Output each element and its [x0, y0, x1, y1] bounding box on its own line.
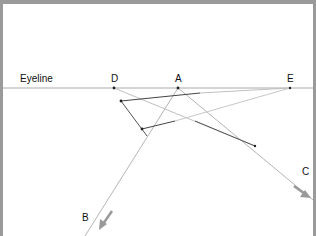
edge-p2-e: [142, 121, 175, 129]
edge-dark-d: [195, 121, 255, 146]
point-a: [177, 87, 180, 90]
point-p3: [254, 145, 256, 147]
arrow-b-icon: [99, 211, 112, 230]
point-p1: [120, 100, 123, 103]
ray-p2-e: [175, 88, 290, 121]
edge-p1-p2: [121, 101, 147, 136]
point-d: [113, 87, 116, 90]
label-d: D: [111, 74, 118, 84]
ray-a-b: [85, 88, 178, 236]
label-a: A: [175, 74, 182, 84]
eyeline-label: Eyeline: [20, 74, 53, 84]
label-b: B: [82, 213, 89, 223]
ray-a-c: [178, 88, 313, 200]
arrow-c-icon: [294, 186, 311, 198]
perspective-diagram: [0, 0, 316, 236]
label-c: C: [302, 167, 309, 177]
label-e: E: [287, 74, 294, 84]
point-e: [289, 87, 291, 89]
point-p2: [141, 128, 144, 131]
